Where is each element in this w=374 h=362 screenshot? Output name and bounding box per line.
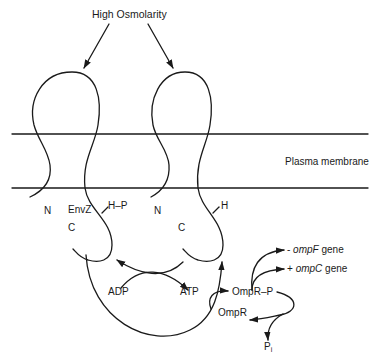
envz-label: EnvZ (68, 205, 91, 215)
high-osmolarity-label: High Osmolarity (92, 9, 167, 20)
ompc-sign: + (287, 263, 296, 274)
envz-right-site-label: H (221, 201, 228, 211)
ompf-arrow (252, 250, 284, 290)
adp-label: ADP (108, 287, 129, 297)
envz-right-site-tick (213, 207, 219, 213)
phosphotransfer-arc (86, 255, 222, 336)
envz-right-loop (151, 72, 223, 261)
ompf-suffix: gene (319, 244, 344, 255)
diagram-graphics (0, 0, 374, 362)
ompr-p-label: OmpR–P (232, 287, 273, 297)
envz-left-site-label: H–P (108, 201, 127, 211)
envz-ompr-diagram: High Osmolarity Plasma membrane N EnvZ H… (0, 0, 374, 362)
plasma-membrane-label: Plasma membrane (285, 157, 369, 167)
ompr-label: OmpR (218, 308, 247, 318)
pi-main: P (264, 341, 271, 352)
ompc-name: ompC (296, 263, 323, 274)
ompf-gene-label: - ompF gene (287, 245, 344, 255)
ompc-suffix: gene (322, 263, 347, 274)
pi-release-arrow (268, 314, 283, 340)
osmolarity-arrow-left (84, 24, 109, 68)
ompc-gene-label: + ompC gene (287, 264, 347, 274)
pi-label: Pi (264, 342, 272, 353)
osmolarity-arrow-right (148, 24, 173, 68)
atp-label: ATP (180, 287, 199, 297)
adp-to-atp-arrow (121, 272, 188, 290)
envz-left-n-label: N (44, 206, 51, 216)
envz-left-c-label: C (68, 223, 75, 233)
envz-right-n-label: N (154, 206, 161, 216)
envz-right-c-label: C (178, 223, 185, 233)
ompf-name: ompF (293, 244, 319, 255)
pi-subscript: i (271, 346, 273, 353)
